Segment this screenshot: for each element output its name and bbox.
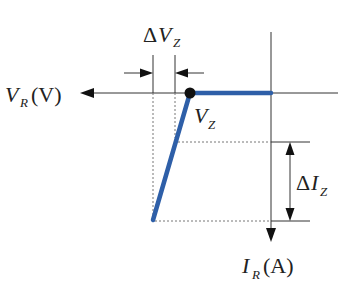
label-delta-vz: Δ V Z (143, 22, 181, 50)
label-y-axis: I R (A) (241, 253, 294, 282)
svg-text:I: I (241, 253, 251, 278)
svg-text:Z: Z (320, 184, 328, 199)
arrow-down-icon (286, 208, 295, 221)
delta-iz-arrow (286, 142, 295, 221)
svg-text:Δ: Δ (296, 170, 310, 195)
zener-characteristic-diagram: V R (V) I R (A) V Z Δ V Z Δ I Z (0, 0, 348, 289)
svg-text:V: V (158, 22, 174, 47)
arrow-up-icon (286, 142, 295, 155)
svg-text:(A): (A) (263, 253, 294, 278)
delta-vz-arrows (124, 69, 204, 78)
y-axis (266, 32, 276, 242)
characteristic-curve (153, 88, 271, 221)
svg-text:Δ: Δ (143, 22, 157, 47)
svg-text:V: V (5, 82, 21, 107)
svg-text:R: R (251, 267, 260, 282)
arrow-right-icon (140, 69, 153, 78)
label-delta-iz: Δ I Z (296, 170, 328, 199)
svg-text:(V): (V) (31, 82, 62, 107)
knee-point-dot (185, 88, 196, 99)
x-axis-arrow-icon (80, 88, 94, 98)
svg-text:I: I (310, 170, 320, 195)
svg-text:Z: Z (173, 35, 181, 50)
svg-text:R: R (19, 95, 28, 110)
arrow-left-icon (175, 69, 188, 78)
y-axis-arrow-icon (266, 228, 276, 242)
label-knee-vz: V Z (194, 103, 216, 132)
svg-text:Z: Z (208, 117, 216, 132)
label-x-axis: V R (V) (5, 82, 62, 110)
delta-vz-guides (153, 55, 175, 220)
